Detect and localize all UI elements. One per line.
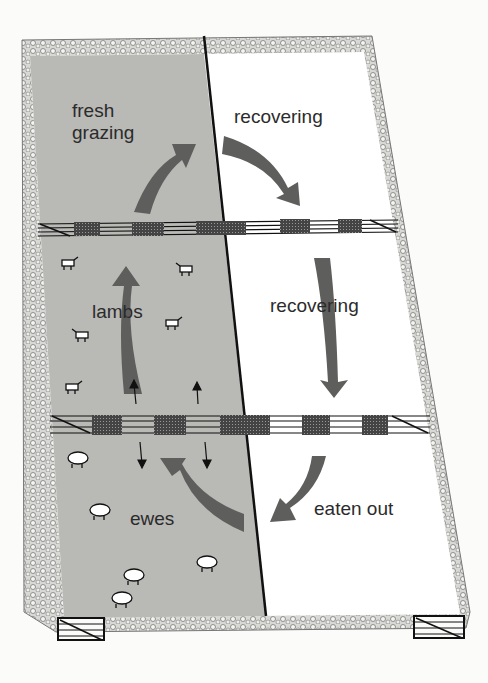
label-ewes: ewes bbox=[130, 508, 174, 530]
label-recovering-top: recovering bbox=[234, 106, 323, 128]
bottom-left-gate bbox=[58, 618, 104, 640]
bottom-right-gate bbox=[414, 616, 464, 638]
lower-cross-fence bbox=[50, 415, 430, 435]
label-recovering-mid: recovering bbox=[270, 295, 359, 317]
label-lambs: lambs bbox=[92, 301, 143, 323]
label-fresh-grazing: fresh grazing bbox=[72, 100, 134, 144]
label-eaten-out: eaten out bbox=[314, 498, 393, 520]
